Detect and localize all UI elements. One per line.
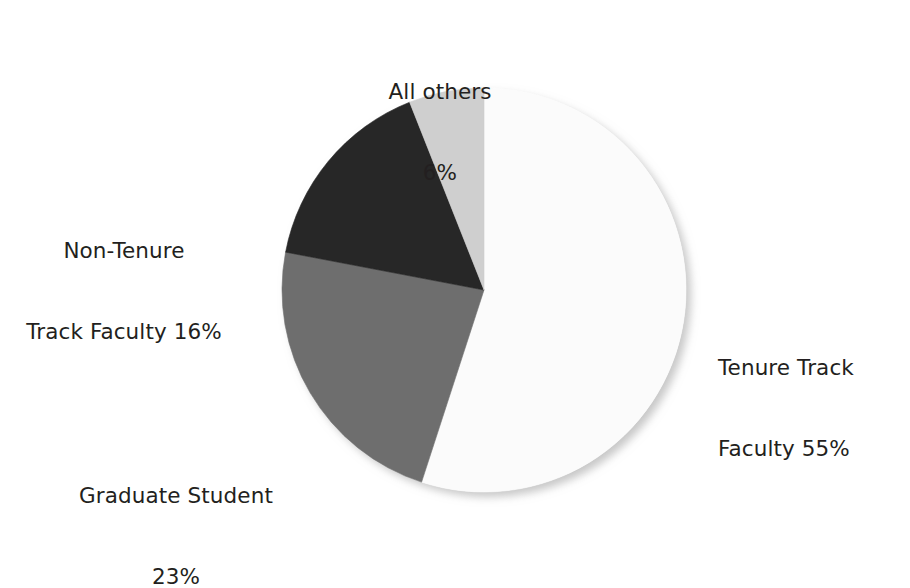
slice-label-all-others-line1: All others [305,78,575,105]
slice-label-graduate-line1: Graduate Student [45,482,307,509]
slice-label-graduate-line2: 23% [45,563,307,588]
slice-label-graduate-student: Graduate Student 23% [45,428,307,588]
slice-label-non-tenure-track-faculty: Non-Tenure Track Faculty 16% [0,183,248,399]
slice-label-non-tenure-line2: Track Faculty 16% [0,318,248,345]
slice-label-tenure-track-faculty: Tenure Track Faculty 55% [718,300,908,516]
slice-label-tenure-line2: Faculty 55% [718,435,908,462]
slice-label-tenure-line1: Tenure Track [718,354,908,381]
slice-label-all-others-line2: 6% [305,159,575,186]
slice-label-all-others: All others 6% [305,24,575,240]
slice-label-non-tenure-line1: Non-Tenure [0,237,248,264]
